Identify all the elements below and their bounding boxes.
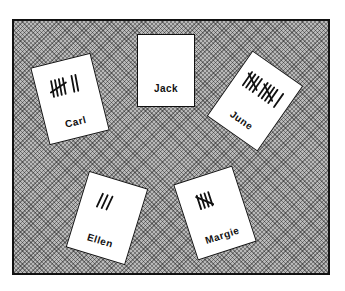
tally-marks-icon <box>179 180 242 218</box>
card-name: June <box>214 99 269 142</box>
card-carl: Carl <box>30 53 110 146</box>
card-name: Carl <box>45 109 106 134</box>
tally-marks-icon <box>35 67 99 103</box>
tally-marks-icon <box>80 185 143 222</box>
card-june: June <box>207 50 304 151</box>
card-name: Margie <box>192 221 252 250</box>
card-name: Jack <box>138 83 194 94</box>
card-jack: Jack <box>137 34 195 107</box>
tally-marks-icon <box>232 63 294 115</box>
card-name: Ellen <box>70 226 131 254</box>
board: Carl Jack June <box>12 19 330 275</box>
card-ellen: Ellen <box>66 171 149 266</box>
card-margie: Margie <box>173 165 257 260</box>
